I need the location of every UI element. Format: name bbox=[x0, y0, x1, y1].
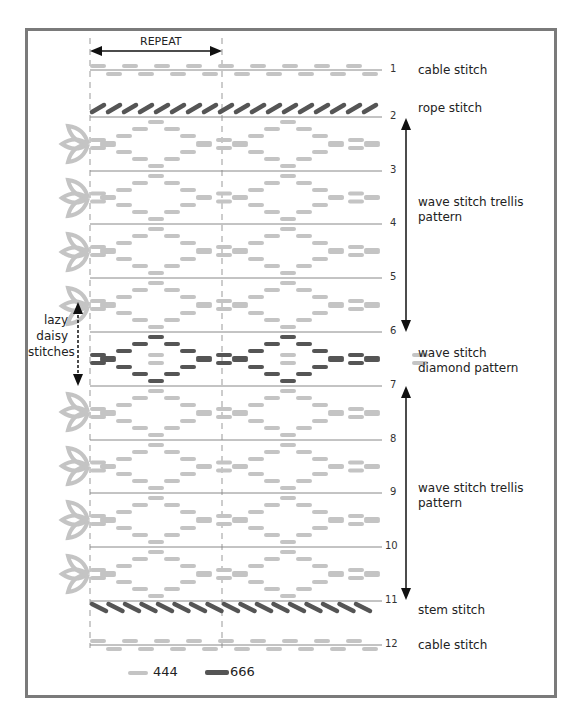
label-line: pattern bbox=[418, 496, 524, 511]
label-stem-stitch: stem stitch bbox=[418, 603, 485, 618]
row-number: 5 bbox=[390, 271, 396, 282]
label-line: wave stitch trellis bbox=[418, 481, 524, 496]
label-trellis-top: wave stitch trellis pattern bbox=[418, 195, 524, 225]
label-line: diamond pattern bbox=[418, 361, 518, 376]
row-number: 7 bbox=[390, 379, 396, 390]
legend-label: 666 bbox=[230, 664, 255, 679]
row-number: 11 bbox=[385, 594, 398, 605]
lazy-daisy-label: lazy daisy stitches bbox=[28, 312, 68, 360]
row-number: 9 bbox=[390, 486, 396, 497]
row-number: 8 bbox=[390, 433, 396, 444]
repeat-label: REPEAT bbox=[140, 35, 182, 48]
row-number: 1 bbox=[390, 63, 396, 74]
row-number: 3 bbox=[390, 164, 396, 175]
label-line: lazy bbox=[28, 312, 68, 328]
label-line: wave stitch trellis bbox=[418, 195, 524, 210]
row-number: 10 bbox=[385, 540, 398, 551]
label-line: wave stitch bbox=[418, 346, 518, 361]
legend-swatch-light bbox=[128, 671, 148, 675]
legend-444: 444 bbox=[128, 664, 178, 679]
label-trellis-bottom: wave stitch trellis pattern bbox=[418, 481, 524, 511]
row-number: 12 bbox=[385, 638, 398, 649]
label-diamond: wave stitch diamond pattern bbox=[418, 346, 518, 376]
label-rope-stitch: rope stitch bbox=[418, 101, 482, 116]
label-line: daisy bbox=[28, 328, 68, 344]
label-line: stitches bbox=[28, 344, 68, 360]
legend-666: 666 bbox=[205, 664, 255, 679]
row-number: 4 bbox=[390, 217, 396, 228]
legend-swatch-dark bbox=[205, 670, 229, 675]
legend-label: 444 bbox=[153, 664, 178, 679]
label-cable-stitch-bottom: cable stitch bbox=[418, 638, 487, 653]
row-number: 6 bbox=[390, 325, 396, 336]
label-line: pattern bbox=[418, 210, 524, 225]
label-cable-stitch-top: cable stitch bbox=[418, 63, 487, 78]
row-number: 2 bbox=[390, 110, 396, 121]
